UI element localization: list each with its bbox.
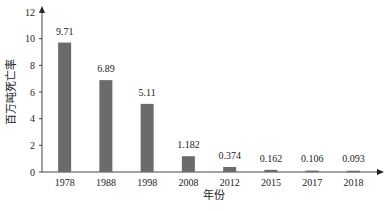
y-ticks: 024681012 xyxy=(25,7,42,178)
bar-2015 xyxy=(264,170,277,172)
bar-1988 xyxy=(99,80,112,172)
data-label-2012: 0.374 xyxy=(218,150,241,161)
x-tick-label-1998: 1998 xyxy=(137,177,157,188)
x-tick-label-2012: 2012 xyxy=(220,177,240,188)
x-tick-label-2008: 2008 xyxy=(178,177,198,188)
x-axis-title: 年份 xyxy=(203,188,225,202)
bar-1978 xyxy=(58,43,71,172)
y-tick-label: 8 xyxy=(30,60,35,71)
bar-2012 xyxy=(223,167,236,172)
y-tick-label: 4 xyxy=(30,113,35,124)
data-label-1978: 9.71 xyxy=(56,26,74,37)
x-ticks: 19781988199820082012201520172018 xyxy=(55,177,364,188)
bars: 9.716.895.111.1820.3740.1620.1060.093 xyxy=(56,26,365,173)
x-tick-label-1988: 1988 xyxy=(96,177,116,188)
y-axis xyxy=(39,6,45,172)
bar-chart: 024681012 9.716.895.111.1820.3740.1620.1… xyxy=(0,0,386,211)
bar-2018 xyxy=(347,171,360,173)
y-tick-label: 0 xyxy=(30,167,35,178)
bar-1998 xyxy=(141,104,154,172)
y-tick-label: 12 xyxy=(25,7,35,18)
x-tick-label-2018: 2018 xyxy=(343,177,363,188)
x-tick-label-1978: 1978 xyxy=(55,177,75,188)
y-tick-label: 10 xyxy=(25,33,35,44)
data-label-1998: 5.11 xyxy=(139,87,156,98)
data-label-1988: 6.89 xyxy=(97,63,115,74)
x-tick-label-2015: 2015 xyxy=(261,177,281,188)
bar-2017 xyxy=(306,171,319,173)
bar-2008 xyxy=(182,156,195,172)
x-axis xyxy=(42,169,384,175)
x-axis-arrow xyxy=(377,169,384,175)
data-label-2018: 0.093 xyxy=(342,153,365,164)
data-label-2008: 1.182 xyxy=(177,139,200,150)
y-tick-label: 2 xyxy=(30,140,35,151)
y-axis-title: 百万吨死亡率 xyxy=(4,59,18,125)
data-label-2015: 0.162 xyxy=(260,153,283,164)
data-label-2017: 0.106 xyxy=(301,153,324,164)
x-tick-label-2017: 2017 xyxy=(302,177,322,188)
y-tick-label: 6 xyxy=(30,87,35,98)
